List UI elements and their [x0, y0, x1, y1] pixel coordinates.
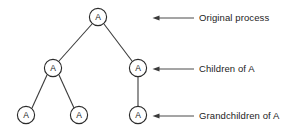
edge-root-to-child-left [59, 24, 92, 61]
edge-root-to-child-right [104, 24, 132, 61]
edge-child-left-to-grandchild-1 [32, 75, 47, 108]
node-grandchild-1[interactable]: A [17, 106, 34, 123]
callout-label-grandchildren-of-a: Grandchildren of A [199, 110, 280, 121]
callout-arrow-head-grandchildren-of-a [153, 113, 160, 118]
edge-child-left-to-grandchild-2 [59, 75, 74, 108]
callout-label-original-process: Original process [199, 12, 269, 23]
node-grandchild-2[interactable]: A [70, 106, 87, 123]
callout-arrow-original-process [153, 15, 195, 20]
callout-arrow-head-original-process [153, 15, 160, 20]
callout-arrows [153, 15, 195, 118]
node-root[interactable]: A [89, 8, 106, 25]
callout-arrow-head-children-of-a [153, 66, 160, 71]
callout-arrow-grandchildren-of-a [153, 113, 195, 118]
node-root-label: A [95, 12, 101, 22]
tree-nodes: A A A A A A [17, 8, 146, 123]
node-grandchild-1-label: A [23, 110, 29, 120]
callout-label-children-of-a: Children of A [199, 63, 255, 74]
process-tree-diagram: A A A A A A [0, 0, 307, 135]
node-child-left-label: A [50, 63, 56, 73]
node-child-right[interactable]: A [129, 59, 146, 76]
node-grandchild-3[interactable]: A [129, 106, 146, 123]
node-grandchild-2-label: A [76, 110, 82, 120]
callout-arrow-children-of-a [153, 66, 195, 71]
node-child-left[interactable]: A [44, 59, 61, 76]
node-grandchild-3-label: A [135, 110, 141, 120]
node-child-right-label: A [135, 63, 141, 73]
